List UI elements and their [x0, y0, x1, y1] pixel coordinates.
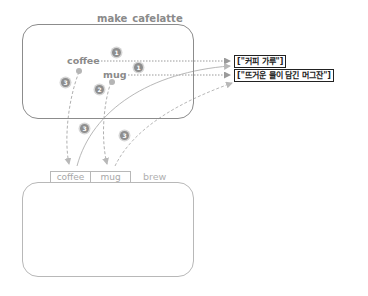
step-badge: 3 — [120, 131, 129, 140]
step-badge: 3 — [61, 78, 70, 87]
step-badge: 1 — [112, 48, 121, 57]
value-coffee: ["커피 가루"] — [234, 55, 286, 68]
step-badge: 2 — [95, 85, 104, 94]
variable-mug-dot — [109, 79, 115, 85]
inner-function-title: brew — [143, 171, 166, 182]
variable-coffee-label: coffee — [67, 55, 100, 66]
step-badge: 1 — [134, 63, 143, 72]
step-badge: 3 — [80, 124, 89, 133]
variable-mug-label: mug — [103, 69, 126, 80]
inner-function-box — [22, 182, 194, 277]
value-mug: ["뜨거운 물이 담긴 머그잔"] — [234, 69, 334, 82]
variable-coffee-dot — [76, 68, 82, 74]
outer-function-title: make_cafelatte — [97, 13, 183, 24]
